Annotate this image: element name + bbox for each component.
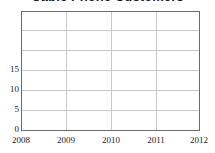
gridline-vertical bbox=[156, 12, 157, 130]
y-tick-label: 5 bbox=[0, 105, 19, 114]
y-tick-label: 10 bbox=[0, 85, 19, 94]
x-axis: 2008 2009 2010 2011 2012 bbox=[0, 135, 215, 149]
chart-container: Cable Phone Customers 0 5 10 15 2008 200… bbox=[0, 0, 215, 153]
gridline-vertical bbox=[66, 12, 67, 130]
plot-area bbox=[21, 11, 200, 131]
x-tick-label: 2009 bbox=[46, 135, 86, 146]
x-tick-label: 2012 bbox=[179, 135, 215, 146]
y-axis: 0 5 10 15 bbox=[0, 11, 19, 131]
y-tick-label: 15 bbox=[0, 65, 19, 74]
x-tick-label: 2010 bbox=[91, 135, 131, 146]
gridline-vertical bbox=[111, 12, 112, 130]
x-tick-label: 2008 bbox=[1, 135, 41, 146]
x-tick-label: 2011 bbox=[136, 135, 176, 146]
chart-title: Cable Phone Customers bbox=[0, 0, 215, 4]
y-tick-label: 0 bbox=[0, 125, 19, 134]
